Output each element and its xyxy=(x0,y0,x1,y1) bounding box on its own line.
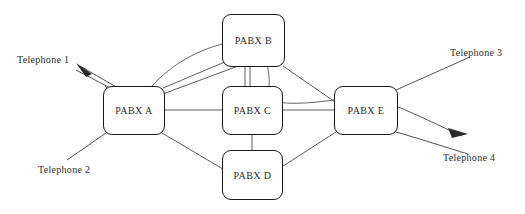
link-a-telephone2 xyxy=(67,133,106,160)
link-a-d xyxy=(162,133,228,172)
endpoint-label-telephone-3: Telephone 3 xyxy=(450,47,502,58)
link-b-e xyxy=(283,66,338,104)
node-pabx-a-label: PABX A xyxy=(115,105,152,116)
link-e-telephone3 xyxy=(396,57,470,90)
link-b-c xyxy=(245,67,250,86)
endpoint-label-telephone-1: Telephone 1 xyxy=(17,54,69,65)
endpoint-label-telephone-4: Telephone 4 xyxy=(443,152,495,163)
node-pabx-d[interactable]: PABX D xyxy=(222,150,283,200)
node-pabx-e[interactable]: PABX E xyxy=(334,86,398,135)
endpoint-label-telephone-2: Telephone 2 xyxy=(38,164,90,175)
arrowhead-telephone1 xyxy=(76,63,92,77)
node-pabx-a[interactable]: PABX A xyxy=(103,86,165,135)
node-pabx-d-label: PABX D xyxy=(234,170,272,181)
node-pabx-b[interactable]: PABX B xyxy=(222,14,285,67)
node-pabx-e-label: PABX E xyxy=(348,105,385,116)
node-pabx-c-label: PABX C xyxy=(234,105,271,116)
pabx-network-diagram: PABX A PABX B PABX C PABX D PABX E Telep… xyxy=(0,0,525,214)
node-pabx-b-label: PABX B xyxy=(235,35,272,46)
link-d-e xyxy=(280,132,336,168)
node-pabx-c[interactable]: PABX C xyxy=(222,86,283,135)
arrowhead-telephone4 xyxy=(448,128,468,138)
link-e-telephone4 xyxy=(396,106,468,154)
